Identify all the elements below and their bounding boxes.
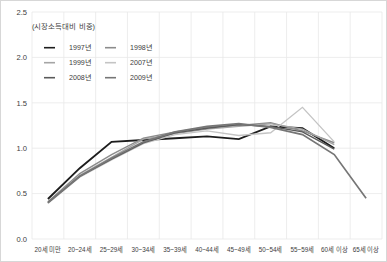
y-axis-tick-label: 1.5 [16,99,27,108]
y-axis-tick-label: 2.5 [16,8,27,17]
y-axis-tick-label: 1.0 [16,144,27,153]
chart-legend: 1997년1998년1999년2007년2008년2009년 [44,43,153,82]
legend-label: 2008년 [69,73,92,82]
x-axis-tick-label: 65세 이상 [353,245,380,254]
y-axis-tick-label: 0.0 [16,235,27,244]
legend-label: 2009년 [130,73,153,82]
x-axis-tick-label: 30~34세 [132,245,156,254]
x-axis-tick-label: 55~59세 [291,245,315,254]
x-axis-tick-label: 45~49세 [227,245,251,254]
line-chart: 0.00.51.01.52.02.5 20세 미만20~24세25~29세30~… [1,1,387,262]
legend-label: 1999년 [69,58,92,67]
chart-container: 0.00.51.01.52.02.5 20세 미만20~24세25~29세30~… [0,0,387,262]
chart-subtitle: (시장소득대비 비중) [32,22,95,31]
legend-label: 2007년 [130,58,153,67]
x-axis-tick-label: 20세 미만 [35,245,62,254]
x-axis-tick-label: 25~29세 [100,245,124,254]
y-axis-tick-label: 0.5 [16,189,27,198]
x-axis-tick-label: 60세 이상 [321,245,348,254]
y-axis-ticks: 0.00.51.01.52.02.5 [16,8,27,244]
y-axis-tick-label: 2.0 [16,53,27,62]
x-axis-ticks: 20세 미만20~24세25~29세30~34세35~39세40~44세45~4… [35,245,380,254]
legend-label: 1998년 [130,43,153,52]
x-axis-tick-label: 20~24세 [68,245,92,254]
legend-label: 1997년 [69,43,92,52]
x-axis-tick-label: 35~39세 [163,245,187,254]
x-axis-tick-label: 50~54세 [259,245,283,254]
x-axis-tick-label: 40~44세 [195,245,219,254]
